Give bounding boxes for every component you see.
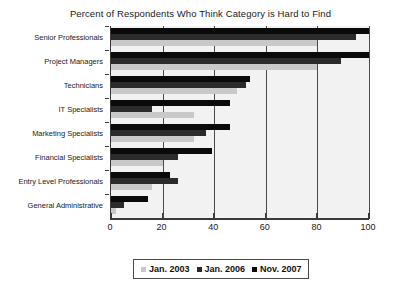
- legend-item: Nov. 2007: [252, 264, 301, 274]
- y-axis-label: General Administrative: [28, 201, 103, 210]
- y-axis-tick: [105, 170, 109, 171]
- y-axis-label: Project Managers: [44, 57, 103, 66]
- y-axis-label: Senior Professionals: [34, 33, 103, 42]
- y-axis-label: Technicians: [64, 81, 103, 90]
- legend-label: Jan. 2006: [205, 264, 246, 274]
- y-axis-tick: [105, 50, 109, 51]
- x-axis-tick-label: 60: [260, 222, 270, 232]
- bar-group: [111, 122, 369, 146]
- bar-group: [111, 26, 369, 50]
- x-axis-tick-60: [265, 213, 267, 219]
- bar-jan-2003-senior-professionals: [111, 40, 317, 46]
- x-axis-tick-label: 20: [157, 222, 167, 232]
- y-axis-label: Marketing Specialists: [32, 129, 103, 138]
- x-axis-tick-80: [316, 213, 318, 219]
- y-axis-tick: [105, 74, 109, 75]
- bar-group: [111, 194, 369, 218]
- x-axis-tick-label: 0: [107, 222, 112, 232]
- x-axis-line: [110, 218, 369, 220]
- y-axis-label: Entry Level Professionals: [18, 177, 103, 186]
- plot-area: [110, 26, 369, 218]
- bar-jan-2003-entry-level-professionals: [111, 184, 152, 190]
- y-axis-tick: [105, 98, 109, 99]
- bar-jan-2003-technicians: [111, 88, 237, 94]
- bar-group: [111, 74, 369, 98]
- legend-label: Jan. 2003: [149, 264, 190, 274]
- y-axis-label: Financial Specialists: [35, 153, 103, 162]
- legend-item: Jan. 2006: [197, 264, 246, 274]
- y-axis-label: IT Specialists: [59, 105, 103, 114]
- legend-swatch-icon: [252, 267, 257, 272]
- legend-swatch-icon: [141, 267, 146, 272]
- bar-jan-2003-it-specialists: [111, 112, 194, 118]
- y-axis-tick: [105, 26, 109, 27]
- x-axis-tick-40: [213, 213, 215, 219]
- bar-chart-figure: Percent of Respondents Who Think Categor…: [0, 0, 401, 296]
- legend-label: Nov. 2007: [260, 264, 301, 274]
- x-axis-tick-label: 40: [208, 222, 218, 232]
- bar-jan-2003-project-managers: [111, 64, 317, 70]
- bar-group: [111, 146, 369, 170]
- chart-legend: Jan. 2003Jan. 2006Nov. 2007: [133, 259, 309, 279]
- gridline-100: [369, 26, 370, 218]
- bar-jan-2003-financial-specialists: [111, 160, 163, 166]
- y-axis-tick: [105, 146, 109, 147]
- chart-title: Percent of Respondents Who Think Categor…: [0, 8, 401, 19]
- x-axis-tick-0: [110, 213, 112, 219]
- x-axis-tick-label: 100: [360, 222, 375, 232]
- bar-jan-2003-general-administrative: [111, 208, 116, 214]
- bar-group: [111, 50, 369, 74]
- legend-item: Jan. 2003: [141, 264, 190, 274]
- y-axis-tick: [105, 194, 109, 195]
- x-axis-tick-100: [368, 213, 370, 219]
- bar-jan-2003-marketing-specialists: [111, 136, 194, 142]
- bar-group: [111, 170, 369, 194]
- x-axis-tick-20: [162, 213, 164, 219]
- y-axis-category-labels: Senior ProfessionalsProject ManagersTech…: [0, 26, 107, 218]
- bar-group: [111, 98, 369, 122]
- y-axis-tick: [105, 122, 109, 123]
- x-axis-tick-label: 80: [311, 222, 321, 232]
- legend-swatch-icon: [197, 267, 202, 272]
